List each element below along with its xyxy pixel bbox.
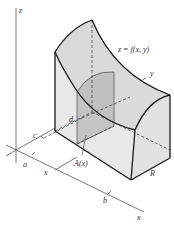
cross-section-label: A(x) xyxy=(73,159,88,168)
label-a: a xyxy=(23,160,27,169)
tick-a xyxy=(32,152,35,155)
region-label: R xyxy=(149,169,155,178)
tick-b xyxy=(108,191,111,194)
label-c: c xyxy=(33,131,37,140)
tick-c xyxy=(41,136,44,139)
label-x-tick: x xyxy=(43,168,48,177)
y-axis-label: y xyxy=(149,69,154,78)
surface-label: z = f(x, y) xyxy=(117,45,150,54)
volume-diagram: z x y a x b c z = f(x, y) d A(x) R xyxy=(0,0,174,226)
y-axis-back xyxy=(6,150,16,156)
z-axis-label: z xyxy=(18,6,23,15)
label-b: b xyxy=(103,196,107,205)
x-axis-label: x xyxy=(136,213,141,222)
